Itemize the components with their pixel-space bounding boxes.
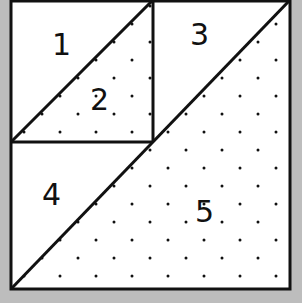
piece-3-label: 3 — [190, 17, 209, 52]
quilt-block-diagram: 1 2 3 4 5 — [0, 0, 302, 303]
piece-5-label: 5 — [195, 194, 214, 229]
piece-1-label: 1 — [52, 27, 71, 62]
piece-4-label: 4 — [42, 177, 61, 212]
piece-2-label: 2 — [90, 82, 109, 117]
